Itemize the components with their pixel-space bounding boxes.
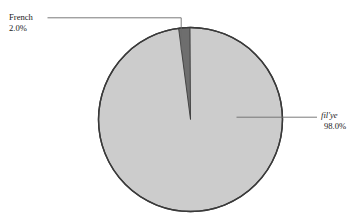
slice-label-french-name: French <box>9 12 33 23</box>
slice-label-filye-percent: 98.0% <box>321 121 346 132</box>
slice-label-filye-name: fil'ye <box>321 110 346 121</box>
slice-label-french: French 2.0% <box>9 12 33 33</box>
slice-label-filye: fil'ye 98.0% <box>321 110 346 131</box>
pie-chart-svg <box>0 0 362 215</box>
pie-chart-figure: French 2.0% fil'ye 98.0% <box>0 0 362 215</box>
slice-label-french-percent: 2.0% <box>9 23 33 34</box>
